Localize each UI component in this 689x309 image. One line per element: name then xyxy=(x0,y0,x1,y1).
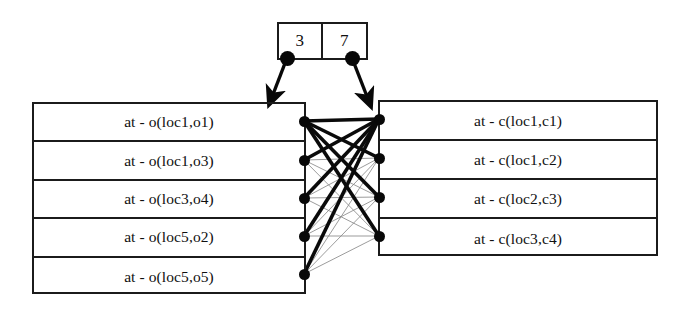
list-item: at - c(loc3,c4) xyxy=(380,219,656,258)
graph-edge xyxy=(304,236,379,274)
graph-node-left-0 xyxy=(299,116,310,127)
graph-edge xyxy=(304,197,379,274)
right-counter-pointer-node xyxy=(345,51,360,66)
graph-node-left-4 xyxy=(299,269,310,280)
object-location-list: at - o(loc1,o1) at - o(loc1,o3) at - o(l… xyxy=(32,102,306,294)
graph-node-left-1 xyxy=(299,155,310,166)
diagram-canvas: 3 7 at - o(loc1,o1) at - o(loc1,o3) at -… xyxy=(0,0,689,309)
proposition-label: at - c(loc3,c4) xyxy=(474,230,562,248)
proposition-label: at - o(loc1,o3) xyxy=(124,152,214,170)
proposition-label: at - c(loc1,c1) xyxy=(474,112,562,130)
list-item: at - c(loc1,c2) xyxy=(380,141,656,180)
proposition-label: at - o(loc3,o4) xyxy=(124,190,214,208)
counter-cell-right: 7 xyxy=(323,24,367,58)
graph-edge xyxy=(304,119,379,121)
graph-edge xyxy=(304,119,379,274)
counter-value-right: 7 xyxy=(340,31,349,51)
container-location-list: at - c(loc1,c1) at - c(loc1,c2) at - c(l… xyxy=(378,100,658,256)
proposition-label: at - o(loc5,o5) xyxy=(124,268,214,286)
proposition-label: at - o(loc1,o1) xyxy=(124,113,214,131)
graph-node-right-0 xyxy=(374,114,385,125)
list-item: at - o(loc1,o1) xyxy=(34,104,304,142)
list-item: at - c(loc2,c3) xyxy=(380,180,656,219)
left-counter-pointer-node xyxy=(280,51,295,66)
graph-node-left-3 xyxy=(299,231,310,242)
graph-node-right-1 xyxy=(374,153,385,164)
proposition-label: at - c(loc1,c2) xyxy=(474,151,562,169)
proposition-label: at - c(loc2,c3) xyxy=(474,190,562,208)
list-item: at - o(loc1,o3) xyxy=(34,142,304,180)
proposition-label: at - o(loc5,o2) xyxy=(124,228,214,246)
graph-node-right-2 xyxy=(374,192,385,203)
graph-node-left-2 xyxy=(299,193,310,204)
bipartite-edges xyxy=(304,119,379,274)
graph-node-right-3 xyxy=(374,231,385,242)
list-item: at - c(loc1,c1) xyxy=(380,102,656,141)
counter-value-left: 3 xyxy=(296,31,305,51)
list-item: at - o(loc5,o5) xyxy=(34,258,304,296)
list-item: at - o(loc3,o4) xyxy=(34,181,304,219)
list-item: at - o(loc5,o2) xyxy=(34,219,304,257)
